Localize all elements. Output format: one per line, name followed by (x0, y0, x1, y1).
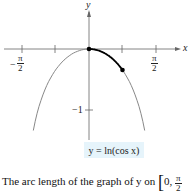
neg-sign: − (10, 60, 16, 70)
point-origin (87, 47, 92, 52)
caption: The arc length of the graph of y on [0, … (2, 172, 182, 191)
equation-label: y = ln(cos x) (84, 142, 144, 158)
arc-segment (89, 49, 123, 70)
point-pi-over-4 (120, 68, 125, 73)
x-axis-label: x (183, 43, 187, 53)
tick-label-neg-one: −1 (72, 105, 83, 115)
y-axis-label: y (86, 0, 90, 10)
chart-canvas (0, 0, 195, 191)
tick-label-half-pi: π2 (151, 54, 158, 73)
y-axis-arrow-icon (87, 10, 91, 17)
x-axis-arrow-icon (175, 47, 181, 51)
tick-label-neg-half-pi: π2 (17, 54, 24, 73)
